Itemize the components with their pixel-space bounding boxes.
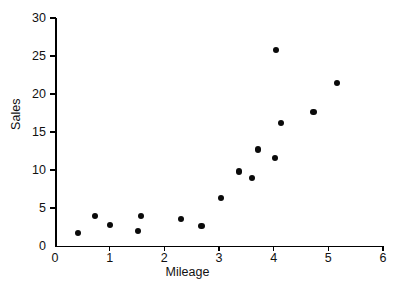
- x-tick-label: 5: [325, 252, 332, 265]
- y-axis-title: Sales: [10, 84, 23, 144]
- x-tick-label: 0: [52, 252, 59, 265]
- data-point-marker: [334, 80, 340, 86]
- y-tick-label: 30: [32, 12, 46, 25]
- y-tick-label: 0: [39, 240, 46, 253]
- data-point-marker: [272, 155, 278, 161]
- x-tick-label: 1: [106, 252, 113, 265]
- data-point-marker: [107, 222, 113, 228]
- data-point-marker: [198, 223, 204, 229]
- x-tick-label: 6: [380, 252, 387, 265]
- data-point-marker: [92, 213, 98, 219]
- data-point-marker: [218, 195, 224, 201]
- data-point-marker: [255, 146, 261, 152]
- y-tick-label: 25: [32, 50, 46, 63]
- y-tick-label: 10: [32, 164, 46, 177]
- data-point-marker: [278, 120, 284, 126]
- y-tick-label: 15: [32, 126, 46, 139]
- data-point-marker: [236, 168, 242, 174]
- y-tick-label: 5: [39, 202, 46, 215]
- x-axis-title-text: Mileage: [166, 265, 210, 279]
- x-axis-title: Mileage: [0, 266, 405, 279]
- x-tick-label: 3: [216, 252, 223, 265]
- data-point-marker: [273, 47, 279, 53]
- y-tick-label: 20: [32, 88, 46, 101]
- data-point-marker: [75, 230, 81, 236]
- data-point-marker: [310, 109, 316, 115]
- data-point-marker: [249, 175, 255, 181]
- data-point-marker: [138, 213, 144, 219]
- x-tick-label: 2: [161, 252, 168, 265]
- plot-data-area: [55, 18, 383, 246]
- x-tick-label: 4: [270, 252, 277, 265]
- scatter-plot-figure: 051015202530 0123456 Sales Mileage: [0, 0, 405, 286]
- data-point-marker: [135, 228, 141, 234]
- data-point-marker: [178, 216, 184, 222]
